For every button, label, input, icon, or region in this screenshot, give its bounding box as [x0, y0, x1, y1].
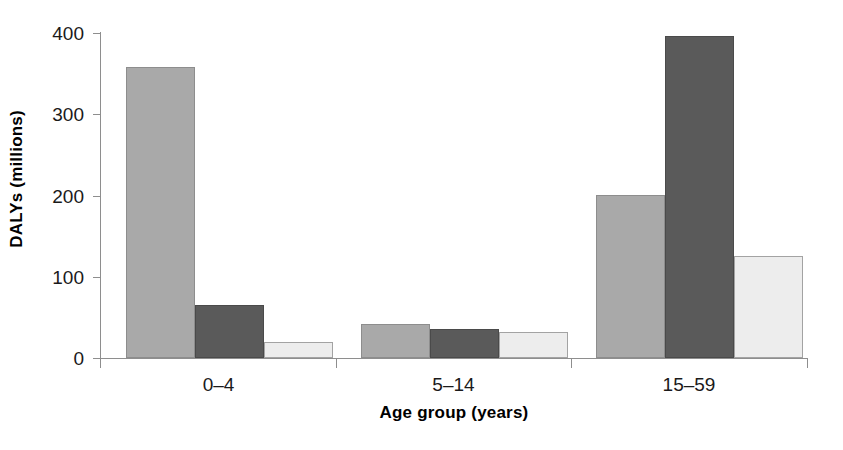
bar-group-5-14	[361, 33, 567, 358]
x-tick-mark-left	[100, 359, 101, 368]
x-axis-line	[100, 358, 808, 359]
bar-chart-figure: DALYs (millions) 400 300 200 100 0	[0, 0, 843, 450]
bar-5-14-series-1	[361, 324, 430, 358]
y-tick-label-300-wrap: 300	[36, 105, 84, 124]
bar-0-4-series-3	[264, 342, 333, 358]
bar-15-59-series-3	[734, 256, 803, 358]
y-axis-ticks: 400 300 200 100 0	[0, 0, 101, 450]
bar-5-14-series-2	[430, 329, 499, 358]
y-tick-label-0-wrap: 0	[36, 349, 84, 368]
y-tick-mark-0	[93, 358, 100, 359]
bar-0-4-series-2	[195, 305, 264, 358]
y-tick-label-200: 200	[36, 187, 84, 206]
y-tick-label-0: 0	[36, 349, 84, 368]
plot-area	[101, 33, 807, 358]
y-tick-label-100-wrap: 100	[36, 268, 84, 287]
bar-group-0-4	[126, 33, 332, 358]
bar-0-4-series-1	[126, 67, 195, 358]
x-tick-mark-2	[571, 359, 572, 368]
bar-15-59-series-2	[665, 36, 734, 358]
x-category-label-15-59: 15–59	[571, 374, 807, 396]
bar-group-15-59	[596, 33, 802, 358]
x-category-label-5-14: 5–14	[336, 374, 571, 396]
y-tick-label-400: 400	[36, 24, 84, 43]
bar-5-14-series-3	[499, 332, 568, 358]
y-tick-mark-200	[93, 196, 100, 197]
y-tick-label-400-wrap: 400	[36, 24, 84, 43]
x-tick-mark-right	[807, 359, 808, 368]
x-category-label-0-4: 0–4	[101, 374, 336, 396]
y-tick-mark-400	[93, 33, 100, 34]
bar-15-59-series-1	[596, 195, 665, 358]
y-tick-label-300: 300	[36, 105, 84, 124]
y-tick-mark-300	[93, 114, 100, 115]
y-tick-label-100: 100	[36, 268, 84, 287]
y-tick-mark-100	[93, 277, 100, 278]
x-axis-title: Age group (years)	[101, 403, 807, 423]
y-tick-label-200-wrap: 200	[36, 187, 84, 206]
x-tick-mark-1	[336, 359, 337, 368]
